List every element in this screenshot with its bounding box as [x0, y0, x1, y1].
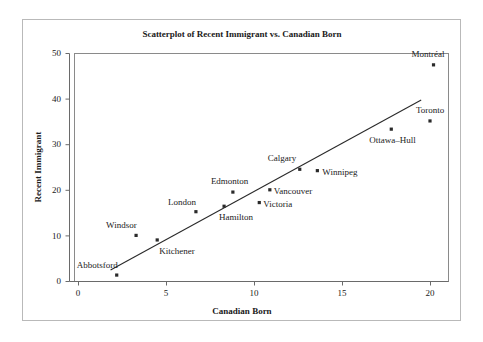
data-point-label: Toronto [416, 105, 445, 115]
data-point [115, 273, 118, 276]
regression-line [111, 100, 422, 270]
chart-title: Scatterplot of Recent Immigrant vs. Cana… [142, 29, 341, 39]
data-point [316, 169, 319, 172]
y-tick-label: 20 [52, 185, 62, 195]
y-tick-label: 0 [57, 276, 62, 286]
data-point [390, 128, 393, 131]
data-point [231, 190, 234, 193]
x-tick-label: 20 [426, 288, 436, 298]
data-point-label: Abbotsford [77, 260, 118, 270]
data-point [222, 205, 225, 208]
y-tick-label: 40 [52, 94, 62, 104]
figure-root: Scatterplot of Recent Immigrant vs. Cana… [0, 0, 483, 342]
data-point-label: Hamilton [219, 212, 253, 222]
x-tick-label: 10 [250, 288, 260, 298]
data-point-label: London [168, 197, 196, 207]
data-point-label: Vancouver [274, 186, 312, 196]
y-tick-label: 30 [52, 139, 62, 149]
x-axis-label: Canadian Born [212, 306, 271, 316]
data-point [268, 188, 271, 191]
data-point-label: Windsor [106, 220, 137, 230]
data-point-label: Montréal [412, 49, 445, 59]
data-point [432, 63, 435, 66]
scatterplot-chart: Scatterplot of Recent Immigrant vs. Cana… [0, 0, 483, 342]
data-point [258, 201, 261, 204]
data-point [134, 234, 137, 237]
x-tick-label: 5 [164, 288, 169, 298]
x-tick-label: 15 [338, 288, 348, 298]
data-point-labels-group: AbbotsfordWindsorKitchenerLondonHamilton… [77, 49, 445, 270]
data-point-label: Winnipeg [322, 167, 358, 177]
data-point-label: Calgary [268, 153, 297, 163]
data-point-label: Edmonton [211, 176, 249, 186]
data-point [194, 210, 197, 213]
y-axis-ticks: 01020304050 [52, 48, 70, 286]
data-point [428, 119, 431, 122]
x-tick-label: 0 [76, 288, 81, 298]
data-points-group [115, 63, 435, 276]
data-point [156, 238, 159, 241]
x-axis-ticks: 05101520 [70, 282, 449, 299]
data-point-label: Victoria [263, 199, 292, 209]
y-tick-label: 10 [52, 231, 62, 241]
data-point [298, 168, 301, 171]
data-point-label: Ottawa–Hull [369, 135, 416, 145]
y-axis-label: Recent Immigrant [33, 132, 43, 203]
y-tick-label: 50 [52, 48, 62, 58]
plot-area-frame [75, 54, 449, 282]
data-point-label: Kitchener [159, 246, 194, 256]
